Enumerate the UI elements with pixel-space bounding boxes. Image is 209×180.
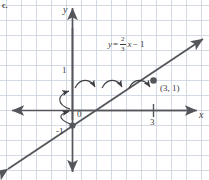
origin-label: 0 (77, 110, 82, 119)
point-coordinate-label: (3, 1) (160, 84, 180, 93)
graph-line (8, 39, 203, 169)
run-arrow-1 (75, 80, 95, 88)
equation-lhs: y (108, 40, 112, 49)
x-tick-label-3: 3 (150, 118, 155, 127)
point-3-1 (150, 77, 157, 84)
y-tick-label-1: 1 (62, 66, 67, 75)
y-tick-label-neg-1: -1 (56, 127, 64, 136)
equation-constant: − 1 (133, 40, 145, 49)
fraction-numerator: 2 (120, 36, 126, 43)
equation-fraction: 2 3 (120, 36, 126, 53)
fraction-denominator: 3 (120, 46, 126, 53)
equation-equals: = (113, 40, 118, 49)
equation-label: y = 2 3 x − 1 (108, 36, 144, 53)
x-axis-label: x (199, 110, 203, 120)
rise-arrow-2 (60, 91, 70, 109)
rise-arrows (60, 91, 70, 124)
y-axis-label: y (63, 5, 67, 15)
point-y-intercept (69, 122, 75, 128)
rise-arrow-1 (61, 112, 70, 125)
run-arrow-2 (102, 80, 122, 88)
equation-variable: x (128, 40, 132, 49)
part-label: c. (2, 2, 8, 10)
